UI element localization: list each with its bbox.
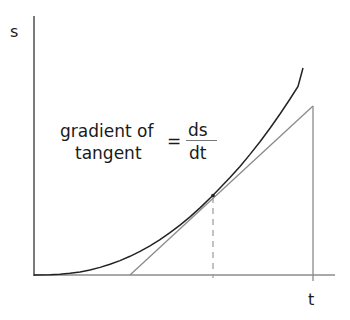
equals-sign: = [167,131,181,151]
curve [34,68,303,275]
fraction-numerator: ds [188,120,208,140]
x-axis-label: t [308,290,314,309]
distance-time-diagram: s t gradient of tangent = ds dt [0,0,350,320]
y-axis-label: s [10,22,18,41]
fraction-denominator: dt [189,143,207,163]
annotation-line2: tangent [75,143,142,163]
tangent-line [130,106,313,275]
tangent-point [211,194,215,198]
annotation-line1: gradient of [60,121,154,141]
